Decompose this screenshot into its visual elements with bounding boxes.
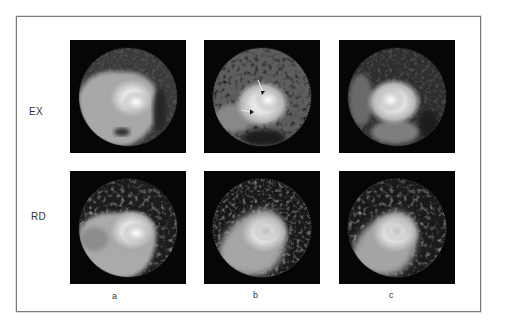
panel-rd-a: [70, 171, 186, 284]
column-label-b: b: [253, 290, 258, 300]
panel-ex-b: [204, 40, 320, 153]
scan-image: [204, 171, 320, 284]
scan-image: [204, 40, 320, 153]
column-label-c: c: [389, 290, 394, 300]
scan-image: [339, 40, 455, 153]
panel-ex-c: [339, 40, 455, 153]
panel-ex-a: [70, 40, 186, 153]
panel-rd-c: [339, 171, 455, 284]
scan-image: [70, 171, 186, 284]
row-label-ex: EX: [29, 106, 43, 117]
column-label-a: a: [112, 291, 117, 301]
row-label-rd: RD: [31, 211, 46, 222]
scan-image: [339, 171, 455, 284]
scan-image: [70, 40, 186, 153]
panel-rd-b: [204, 171, 320, 284]
